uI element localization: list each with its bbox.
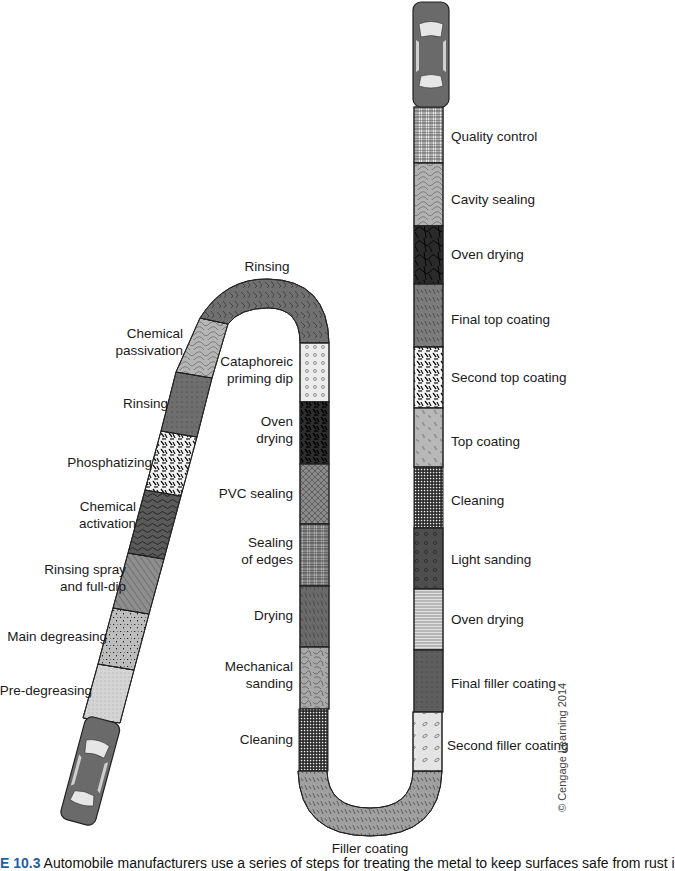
label-cavity-sealing: Cavity sealing [451,191,535,208]
label-pre-degreasing: Pre-degreasing [0,682,92,699]
label-line: of edges [241,551,293,568]
car-icon-end [413,2,449,107]
label-main-degreasing: Main degreasing [7,628,107,645]
label-second-top-coating: Second top coating [451,369,567,386]
label-mechanical-sanding: Mechanical sanding [225,658,293,692]
figure-caption: E 10.3 Automobile manufacturers use a se… [0,855,675,871]
label-line: Sealing [241,534,293,551]
label-line: Chemical [79,498,136,515]
label-cleaning-middle: Cleaning [240,731,293,748]
bottom-u-filler-coating [298,771,442,836]
copyright-notice: © Cengage Learning 2014 [556,683,568,812]
car-icon-start [59,715,121,827]
label-line: sanding [225,675,293,692]
label-pvc-sealing: PVC sealing [219,485,293,502]
caption-text: Automobile manufacturers use a series of… [40,855,674,871]
figure-number: E 10.3 [0,855,40,871]
label-line: Mechanical [225,658,293,675]
label-oven-drying-right-bottom: Oven drying [451,611,524,628]
label-oven-drying-middle: Oven drying [256,413,293,447]
label-rinsing-spray: Rinsing spray and full-dip [44,561,126,595]
label-second-filler-coating: Second filler coating [447,737,569,754]
label-oven-drying-right-top: Oven drying [451,246,524,263]
label-line: drying [256,430,293,447]
label-chemical-passivation: Chemical passivation [115,325,183,359]
label-line: passivation [115,342,183,359]
label-cataphoreic-priming-dip: Cataphoreic priming dip [220,353,293,387]
middle-column-track [299,343,329,771]
label-chemical-activation: Chemical activation [79,498,136,532]
label-line: activation [79,515,136,532]
label-cleaning-right: Cleaning [451,492,504,509]
label-line: Chemical [115,325,183,342]
label-phosphatizing: Phosphatizing [67,454,152,471]
label-rinsing-left: Rinsing [123,395,168,412]
right-column-track [413,107,443,771]
label-drying: Drying [254,607,293,624]
label-line: Cataphoreic [220,353,293,370]
label-final-top-coating: Final top coating [451,311,550,328]
label-line: Oven [256,413,293,430]
label-line: Rinsing spray [44,561,126,578]
label-top-coating: Top coating [451,433,520,450]
label-line: and full-dip [44,578,126,595]
label-light-sanding: Light sanding [451,551,531,568]
label-rinsing-top: Rinsing [232,258,302,275]
label-sealing-of-edges: Sealing of edges [241,534,293,568]
label-line: priming dip [220,370,293,387]
label-final-filler-coating: Final filler coating [451,675,556,692]
label-quality-control: Quality control [451,128,537,145]
